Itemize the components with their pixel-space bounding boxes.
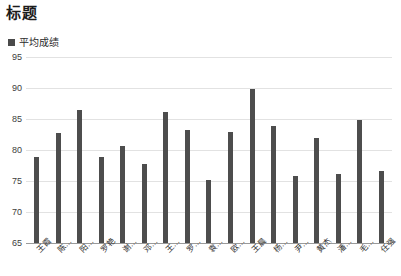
y-axis-tick-label: 90 (2, 84, 22, 93)
y-axis-tick-label: 95 (2, 53, 22, 62)
chart-title: 标题 (6, 4, 37, 22)
bar-slot (327, 57, 349, 243)
bar-slot (134, 57, 156, 243)
bar-slot (349, 57, 371, 243)
bar-slot (91, 57, 113, 243)
y-axis-tick-label: 80 (2, 146, 22, 155)
bar-slot (306, 57, 328, 243)
bar-slot (155, 57, 177, 243)
bar[interactable] (250, 89, 255, 243)
y-axis-tick-label: 70 (2, 208, 22, 217)
bar-slot (241, 57, 263, 243)
bar-slot (284, 57, 306, 243)
y-axis-tick-label: 75 (2, 177, 22, 186)
bar-slot (220, 57, 242, 243)
bar-slot (370, 57, 392, 243)
chart-legend: 平均成绩 (8, 36, 59, 48)
bar-slot (48, 57, 70, 243)
y-axis-tick-label: 65 (2, 239, 22, 248)
bar[interactable] (34, 157, 39, 243)
legend-swatch-icon (8, 39, 15, 46)
bar-slot (177, 57, 199, 243)
legend-item-label: 平均成绩 (19, 37, 59, 48)
bar-slot (198, 57, 220, 243)
plot-area (26, 57, 392, 243)
bar-slot (69, 57, 91, 243)
bar-slot (26, 57, 48, 243)
bar-slot (263, 57, 285, 243)
x-axis: 王霞陈…阳…罗艳谢…邓…王…罗…袁…欧…王晨杨…尹…黄杰潘…毛…任强 (26, 244, 392, 276)
y-axis: 65707580859095 (0, 57, 22, 243)
y-axis-tick-label: 85 (2, 115, 22, 124)
bar-slot (112, 57, 134, 243)
